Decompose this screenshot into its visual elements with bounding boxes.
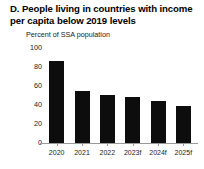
plot-area: [44, 48, 196, 143]
bar: [100, 95, 115, 143]
x-axis-baseline: [40, 143, 198, 144]
y-axis-tick-label: 20: [24, 120, 42, 128]
y-axis-tick-label: 80: [24, 63, 42, 71]
x-axis-tick-label: 2022: [93, 148, 121, 157]
x-axis-tick-mark: [57, 143, 58, 146]
bar: [151, 101, 166, 143]
y-axis-tick-label: 40: [24, 101, 42, 109]
x-axis-tick-label: 2024f: [144, 148, 172, 157]
y-axis-zero-tick-mark: [41, 143, 44, 144]
bar: [49, 61, 64, 143]
y-axis-tick-label: 60: [24, 82, 42, 90]
y-axis-tick-labels: 020406080100: [20, 0, 42, 169]
chart-panel: D. People living in countries with incom…: [0, 0, 204, 169]
x-axis-tick-label: 2023f: [119, 148, 147, 157]
bar: [125, 97, 140, 143]
x-axis-tick-mark: [107, 143, 108, 146]
x-axis-tick-mark: [82, 143, 83, 146]
x-axis-tick-label: 2025f: [169, 148, 197, 157]
x-axis-tick-label: 2020: [43, 148, 71, 157]
x-axis-tick-mark: [158, 143, 159, 146]
x-axis-tick-label: 2021: [68, 148, 96, 157]
x-axis-tick-mark: [183, 143, 184, 146]
bar: [75, 91, 90, 143]
x-axis-tick-mark: [133, 143, 134, 146]
y-axis-tick-label: 100: [24, 44, 42, 52]
bar: [176, 106, 191, 143]
